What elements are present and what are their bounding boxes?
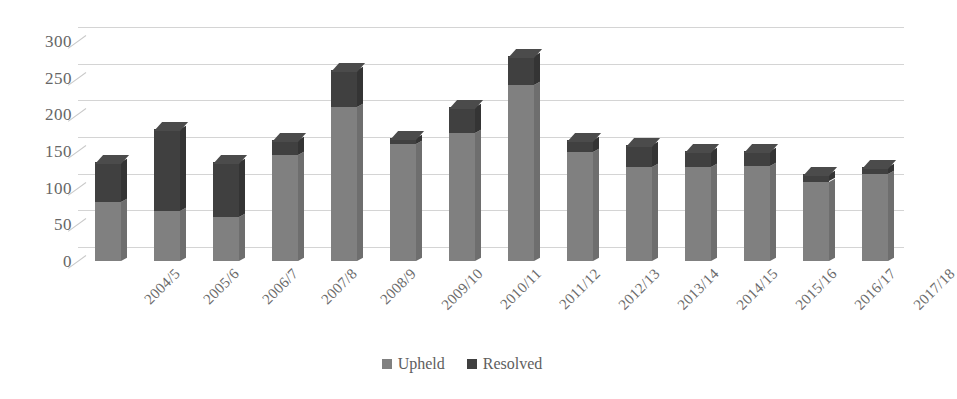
bar-front-face bbox=[154, 211, 180, 261]
bar-front-face bbox=[95, 202, 121, 261]
bar-front-face bbox=[272, 155, 298, 261]
legend-item[interactable]: Resolved bbox=[467, 356, 543, 372]
bar-group bbox=[449, 107, 479, 261]
bar-segment-upheld bbox=[862, 174, 888, 261]
bar-front-face bbox=[95, 162, 121, 202]
x-axis-tick-label: 2013/14 bbox=[675, 266, 722, 313]
bar-segment-upheld bbox=[567, 152, 593, 261]
bar-series-container bbox=[78, 14, 904, 264]
legend-swatch-icon bbox=[467, 359, 477, 369]
legend-item[interactable]: Upheld bbox=[382, 356, 445, 372]
x-axis-tick-label: 2004/5 bbox=[141, 266, 182, 307]
legend-item-label: Resolved bbox=[483, 356, 543, 372]
bar-segment-resolved bbox=[803, 174, 829, 181]
x-axis-tick-label: 2006/7 bbox=[259, 266, 300, 307]
bar-segment-upheld bbox=[803, 182, 829, 261]
x-axis-tick-label: 2011/12 bbox=[556, 266, 602, 312]
bar-side-face bbox=[121, 199, 127, 261]
bar-side-face bbox=[475, 129, 481, 261]
bar-group bbox=[390, 138, 420, 261]
bar-segment-upheld bbox=[154, 211, 180, 261]
chart-legend: UpheldResolved bbox=[0, 356, 924, 372]
bar-segment-upheld bbox=[449, 133, 475, 261]
x-axis: 2004/52005/62006/72007/82008/92009/10201… bbox=[78, 266, 904, 346]
bar-group bbox=[213, 162, 243, 261]
bar-front-face bbox=[803, 182, 829, 261]
bar-segment-resolved bbox=[449, 107, 475, 133]
bar-front-face bbox=[508, 85, 534, 261]
bar-front-face bbox=[626, 145, 652, 167]
bar-segment-resolved bbox=[272, 140, 298, 155]
legend-item-label: Upheld bbox=[398, 356, 445, 372]
legend-swatch-icon bbox=[382, 359, 392, 369]
bar-side-face bbox=[180, 208, 186, 261]
bar-segment-upheld bbox=[508, 85, 534, 261]
bar-side-face bbox=[180, 126, 186, 211]
x-axis-tick-label: 2010/11 bbox=[497, 266, 543, 312]
bar-side-face bbox=[829, 179, 835, 261]
y-axis: 300250200150100500 bbox=[22, 0, 72, 399]
bar-front-face bbox=[213, 162, 239, 217]
bar-front-face bbox=[685, 167, 711, 261]
bar-side-face bbox=[770, 162, 776, 261]
bar-side-face bbox=[534, 82, 540, 261]
x-axis-tick-label: 2017/18 bbox=[911, 266, 957, 313]
bar-segment-resolved bbox=[567, 140, 593, 152]
bar-side-face bbox=[416, 140, 422, 261]
bar-segment-upheld bbox=[331, 107, 357, 261]
x-axis-tick-label: 2012/13 bbox=[616, 266, 663, 313]
bar-side-face bbox=[239, 214, 245, 261]
bar-front-face bbox=[744, 166, 770, 261]
bar-group bbox=[567, 140, 597, 261]
bar-front-face bbox=[508, 56, 534, 85]
bar-segment-resolved bbox=[154, 129, 180, 211]
bar-front-face bbox=[685, 151, 711, 167]
bar-segment-upheld bbox=[626, 167, 652, 261]
bar-segment-resolved bbox=[862, 167, 888, 174]
bar-group bbox=[685, 151, 715, 261]
bar-segment-upheld bbox=[744, 166, 770, 261]
bar-side-face bbox=[357, 104, 363, 261]
bar-segment-resolved bbox=[390, 138, 416, 144]
bar-front-face bbox=[626, 167, 652, 261]
x-axis-tick-label: 2015/16 bbox=[793, 266, 840, 313]
bar-front-face bbox=[390, 144, 416, 261]
bar-front-face bbox=[567, 152, 593, 261]
bar-side-face bbox=[298, 151, 304, 261]
bar-front-face bbox=[449, 133, 475, 261]
bar-group bbox=[862, 167, 892, 261]
bar-group bbox=[95, 162, 125, 261]
bar-segment-upheld bbox=[390, 144, 416, 261]
bar-group bbox=[272, 140, 302, 261]
bar-front-face bbox=[449, 107, 475, 133]
bar-front-face bbox=[154, 129, 180, 211]
bar-segment-upheld bbox=[272, 155, 298, 261]
bar-side-face bbox=[593, 149, 599, 261]
bar-side-face bbox=[652, 164, 658, 261]
bar-side-face bbox=[711, 164, 717, 261]
x-axis-tick-label: 2016/17 bbox=[852, 266, 899, 313]
bar-group bbox=[154, 129, 184, 261]
bar-segment-resolved bbox=[685, 151, 711, 167]
bar-segment-upheld bbox=[213, 217, 239, 261]
x-axis-tick-label: 2009/10 bbox=[439, 266, 486, 313]
bar-segment-upheld bbox=[685, 167, 711, 261]
x-axis-tick-label: 2008/9 bbox=[377, 266, 418, 307]
bar-front-face bbox=[744, 151, 770, 166]
bar-group bbox=[803, 174, 833, 261]
plot-area bbox=[78, 14, 904, 264]
bar-segment-resolved bbox=[508, 56, 534, 85]
bar-segment-resolved bbox=[331, 70, 357, 107]
bar-segment-resolved bbox=[744, 151, 770, 166]
bar-side-face bbox=[239, 159, 245, 217]
bar-front-face bbox=[862, 174, 888, 261]
bar-segment-resolved bbox=[213, 162, 239, 217]
x-axis-tick-label: 2007/8 bbox=[318, 266, 359, 307]
bar-front-face bbox=[213, 217, 239, 261]
bar-front-face bbox=[331, 107, 357, 261]
bar-side-face bbox=[121, 159, 127, 203]
bar-front-face bbox=[331, 70, 357, 107]
bar-group bbox=[331, 70, 361, 261]
bar-group bbox=[744, 151, 774, 261]
